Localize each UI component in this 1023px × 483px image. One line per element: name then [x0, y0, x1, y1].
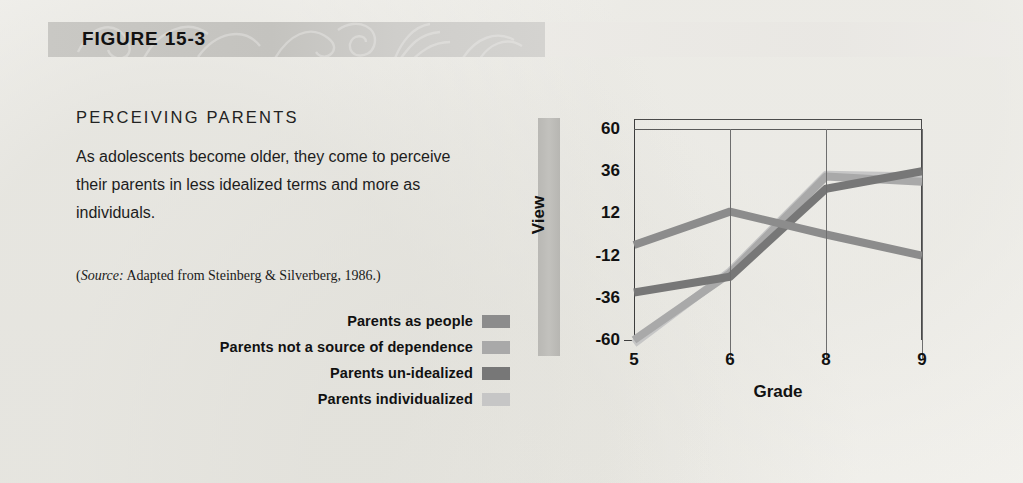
series-line — [634, 175, 922, 344]
y-axis-ticks: 603612-12-36-60 — [570, 100, 620, 400]
legend-color-swatch — [482, 341, 510, 354]
figure-label: FIGURE 15-3 — [82, 28, 206, 50]
legend-item-label: Parents not a source of dependence — [220, 339, 473, 355]
x-axis-tick-label: 8 — [821, 350, 830, 370]
legend-item-label: Parents individualized — [318, 391, 473, 407]
y-axis-tick-label: -36 — [574, 288, 620, 308]
header-band-tail — [545, 22, 1010, 57]
y-axis-tick-label: -12 — [574, 246, 620, 266]
y-axis-label: View — [529, 185, 549, 245]
x-gridline — [730, 129, 731, 360]
line-chart: View 603612-12-36-60 Grade 5689 — [528, 100, 1008, 420]
x-axis-tick-label: 6 — [725, 350, 734, 370]
x-axis-tick-label: 9 — [917, 350, 926, 370]
y-axis-tick-label: -60 — [574, 330, 620, 350]
x-axis-tick-label: 5 — [629, 350, 638, 370]
legend-item-label: Parents un-idealized — [330, 365, 473, 381]
chart-legend: Parents as people Parents not a source o… — [60, 308, 510, 412]
legend-color-swatch — [482, 393, 510, 406]
source-citation: Adapted from Steinberg & Silverberg, 198… — [124, 268, 381, 283]
y-axis-tick-label: 60 — [574, 119, 620, 139]
legend-item-label: Parents as people — [347, 313, 473, 329]
y-axis-tick-label: 36 — [574, 161, 620, 181]
figure-subhead: PERCEIVING PARENTS — [76, 108, 299, 127]
legend-item[interactable]: Parents un-idealized — [60, 360, 510, 386]
legend-item[interactable]: Parents individualized — [60, 386, 510, 412]
data-series-lines — [634, 119, 922, 340]
figure-source-line: (Source: Adapted from Steinberg & Silver… — [76, 268, 506, 284]
x-gridline — [826, 129, 827, 360]
legend-color-swatch — [482, 315, 510, 328]
x-axis-label: Grade — [634, 382, 922, 402]
source-italic-label: Source: — [81, 268, 124, 283]
plot-area — [634, 119, 922, 340]
legend-item[interactable]: Parents as people — [60, 308, 510, 334]
y-axis-tick-label: 12 — [574, 203, 620, 223]
legend-color-swatch — [482, 367, 510, 380]
figure-caption-text: As adolescents become older, they come t… — [76, 143, 476, 227]
legend-item[interactable]: Parents not a source of dependence — [60, 334, 510, 360]
x-gridline — [922, 129, 923, 360]
